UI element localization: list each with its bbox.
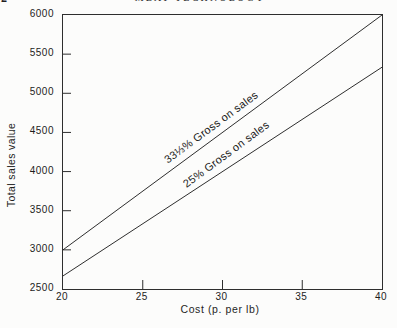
y-tick-label: 3000 [14, 243, 54, 255]
scanned-page: 2 MEAT TECHNOLOGY 33⅓% Gross on sales 25… [0, 0, 397, 328]
series-line-0 [63, 15, 382, 250]
y-axis-title: Total sales value [5, 110, 19, 220]
series-line-1 [63, 67, 382, 276]
y-tick-label: 6000 [14, 8, 54, 20]
y-tick-label: 3500 [14, 204, 54, 216]
y-tick-label: 4500 [14, 125, 54, 137]
running-header-title: MEAT TECHNOLOGY [90, 0, 310, 3]
y-tick-label: 5000 [14, 86, 54, 98]
x-tick-label: 25 [127, 291, 157, 303]
y-tick-label: 5500 [14, 47, 54, 59]
plot-area: 33⅓% Gross on sales 25% Gross on sales [62, 14, 383, 290]
y-tick-label: 2500 [14, 282, 54, 294]
x-axis-title: Cost (p. per lb) [145, 303, 295, 315]
x-tick-label: 35 [286, 291, 316, 303]
page-number: 2 [1, 0, 7, 6]
y-tick-label: 4000 [14, 165, 54, 177]
x-tick-label: 30 [207, 291, 237, 303]
x-tick-label: 40 [366, 291, 396, 303]
